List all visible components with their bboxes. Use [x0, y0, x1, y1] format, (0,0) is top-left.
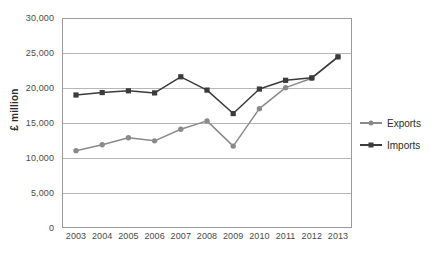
y-tick-label: 5,000	[31, 188, 54, 198]
series-line	[76, 57, 338, 114]
data-point-marker	[231, 143, 236, 148]
legend-item-imports[interactable]: Imports	[360, 134, 435, 156]
chart-legend: ExportsImports	[360, 112, 435, 156]
y-tick-label: 15,000	[26, 118, 54, 128]
x-tick-label: 2005	[118, 231, 138, 241]
series-container	[62, 18, 352, 228]
x-tick-label: 2006	[144, 231, 164, 241]
x-tick-label: 2013	[328, 231, 348, 241]
x-tick-label: 2009	[223, 231, 243, 241]
data-point-marker	[126, 135, 131, 140]
data-point-marker	[231, 111, 236, 116]
y-tick-label: 25,000	[26, 48, 54, 58]
legend-swatch-exports-icon	[360, 117, 382, 129]
chart-figure: 05,00010,00015,00020,00025,00030,000 £ m…	[0, 0, 435, 258]
y-axis-title: £ million	[9, 70, 20, 150]
data-point-marker	[100, 90, 105, 95]
x-tick-label: 2010	[249, 231, 269, 241]
x-tick-label: 2011	[276, 231, 296, 241]
data-point-marker	[257, 86, 262, 91]
data-point-marker	[283, 85, 288, 90]
x-axis: 2003200420052006200720082009201020112012…	[62, 231, 352, 251]
data-point-marker	[152, 138, 157, 143]
data-point-marker	[204, 88, 209, 93]
legend-item-exports[interactable]: Exports	[360, 112, 435, 134]
legend-swatch-imports-icon	[360, 139, 382, 151]
y-tick-label: 10,000	[26, 153, 54, 163]
data-point-marker	[178, 127, 183, 132]
y-tick-label: 0	[49, 223, 54, 233]
data-point-marker	[309, 75, 314, 80]
x-tick-label: 2008	[197, 231, 217, 241]
legend-marker	[369, 121, 374, 126]
data-point-marker	[73, 148, 78, 153]
x-tick-label: 2007	[171, 231, 191, 241]
y-tick-label: 30,000	[26, 13, 54, 23]
data-point-marker	[73, 92, 78, 97]
data-point-marker	[152, 90, 157, 95]
y-tick-label: 20,000	[26, 83, 54, 93]
series-exports	[73, 54, 340, 153]
legend-label: Imports	[387, 140, 420, 151]
data-point-marker	[283, 78, 288, 83]
data-point-marker	[100, 142, 105, 147]
data-point-marker	[178, 74, 183, 79]
data-point-marker	[204, 118, 209, 123]
data-point-marker	[126, 88, 131, 93]
x-tick-label: 2012	[302, 231, 322, 241]
series-line	[76, 57, 338, 151]
x-tick-label: 2003	[66, 231, 86, 241]
series-imports	[73, 54, 340, 116]
legend-label: Exports	[387, 118, 421, 129]
data-point-marker	[257, 106, 262, 111]
data-point-marker	[335, 54, 340, 59]
legend-marker	[369, 143, 374, 148]
x-tick-label: 2004	[92, 231, 112, 241]
